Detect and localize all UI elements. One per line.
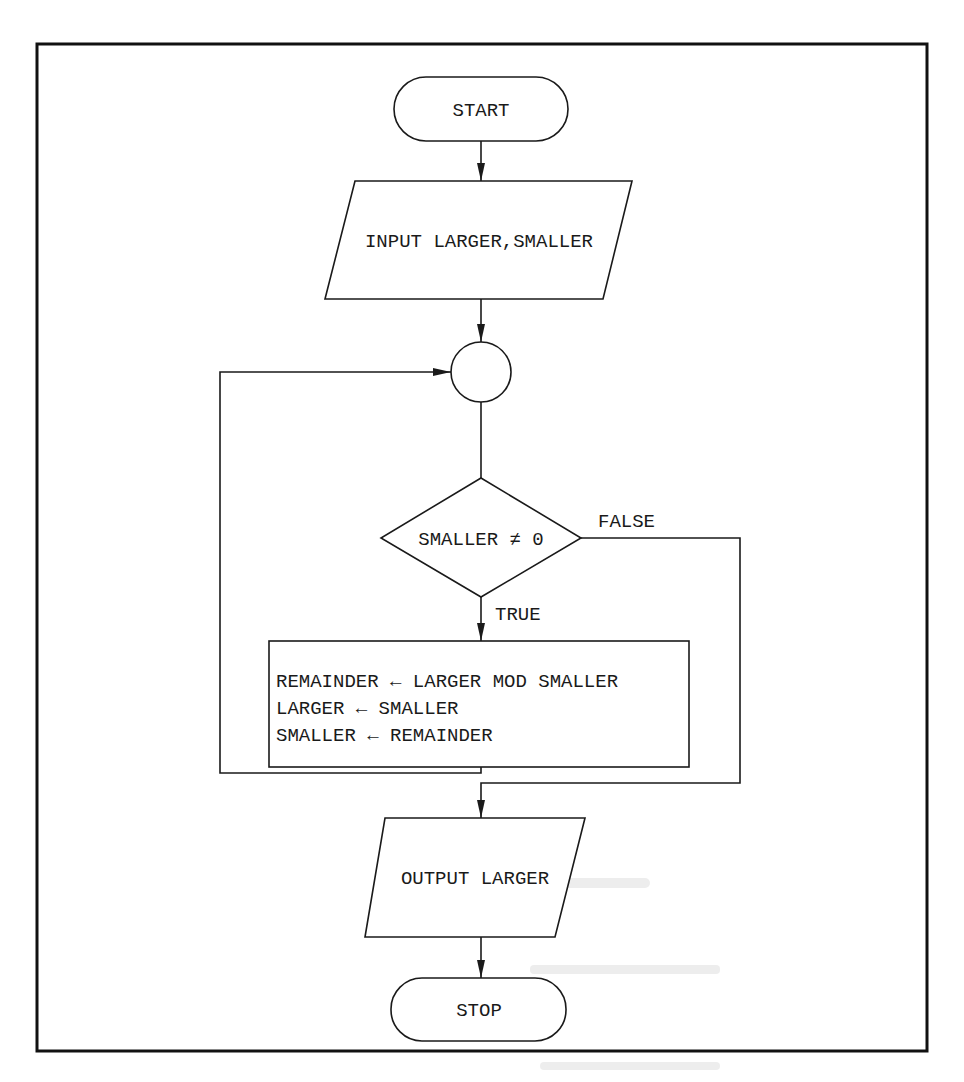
arrowhead-icon: [477, 800, 485, 818]
arrowhead-icon: [477, 163, 485, 181]
stop-label: STOP: [456, 1000, 502, 1022]
output-node: OUTPUT LARGER: [365, 818, 585, 937]
flowchart-canvas: START INPUT LARGER,SMALLER SMALLER ≠ 0 T…: [0, 0, 964, 1082]
false-label: FALSE: [598, 511, 655, 533]
input-label: INPUT LARGER,SMALLER: [365, 231, 593, 253]
start-label: START: [452, 100, 509, 122]
decision-node: SMALLER ≠ 0: [381, 478, 581, 597]
true-branch: TRUE: [477, 597, 541, 641]
start-node: START: [394, 77, 568, 141]
decision-label: SMALLER ≠ 0: [418, 529, 543, 551]
arrow-output-to-stop: [477, 937, 485, 978]
output-label: OUTPUT LARGER: [401, 868, 549, 890]
arrowhead-icon: [477, 623, 485, 641]
arrowhead-icon: [477, 324, 485, 342]
arrowhead-icon: [477, 960, 485, 978]
process-line-2: LARGER ← SMALLER: [276, 698, 458, 720]
input-node: INPUT LARGER,SMALLER: [325, 181, 632, 299]
arrow-start-to-input: [477, 141, 485, 181]
process-line-1: REMAINDER ← LARGER MOD SMALLER: [276, 671, 618, 693]
process-line-3: SMALLER ← REMAINDER: [276, 725, 493, 747]
connector-circle: [451, 342, 511, 402]
stop-node: STOP: [391, 978, 566, 1041]
arrowhead-icon: [433, 368, 451, 376]
arrow-input-to-connector: [477, 299, 485, 342]
process-node: REMAINDER ← LARGER MOD SMALLER LARGER ← …: [269, 641, 689, 767]
true-label: TRUE: [495, 604, 541, 626]
